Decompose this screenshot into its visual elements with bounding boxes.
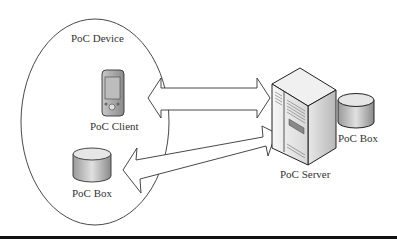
database-cylinder-icon <box>338 94 374 129</box>
device-poc-box-label: PoC Box <box>72 187 112 199</box>
server-tower-icon <box>272 68 336 165</box>
poc-server-label: PoC Server <box>280 168 330 180</box>
client-server-arrow <box>148 78 270 118</box>
bottom-rule-divider <box>0 236 397 239</box>
box-server-arrow <box>123 126 276 193</box>
mobile-device-icon <box>102 70 124 116</box>
poc-client-label: PoC Client <box>90 120 139 132</box>
diagram-canvas <box>0 0 397 241</box>
database-cylinder-icon <box>73 148 111 182</box>
poc-device-label: PoC Device <box>71 32 124 44</box>
server-poc-box-label: PoC Box <box>338 132 378 144</box>
